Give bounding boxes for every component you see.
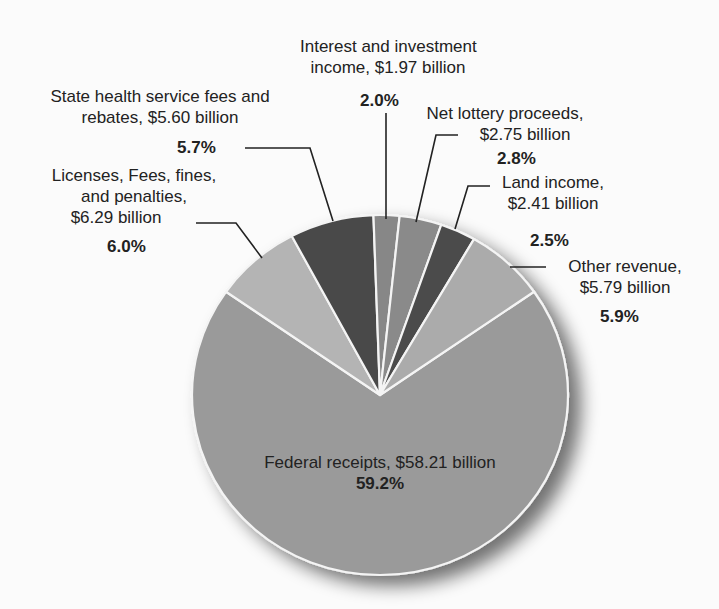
pct-state-health-value: 5.7% xyxy=(177,137,216,158)
label-interest-line2: income, $1.97 billion xyxy=(300,57,476,78)
pct-federal-value: 59.2% xyxy=(230,473,530,494)
pie-chart: Interest and investment income, $1.97 bi… xyxy=(0,0,719,609)
label-land-line2: $2.41 billion xyxy=(493,193,613,214)
pct-land: 2.5% xyxy=(530,230,569,251)
label-licenses: Licenses, Fees, fines, and penalties, $6… xyxy=(34,165,234,228)
label-net-lottery: Net lottery proceeds, $2.75 billion xyxy=(420,103,590,145)
leader-line-licenses xyxy=(196,223,262,258)
label-land-line1: Land income, xyxy=(493,172,613,193)
label-interest: Interest and investment income, $1.97 bi… xyxy=(300,36,476,78)
pct-licenses-value: 6.0% xyxy=(107,236,146,257)
pct-land-value: 2.5% xyxy=(530,230,569,251)
label-net-lottery-line2: $2.75 billion xyxy=(420,124,590,145)
label-state-health-line1: State health service fees and xyxy=(40,86,280,107)
pct-net-lottery: 2.8% xyxy=(497,148,536,169)
pie-slices xyxy=(192,215,568,575)
label-other-line2: $5.79 billion xyxy=(550,277,700,298)
pct-interest-value: 2.0% xyxy=(360,90,399,111)
label-net-lottery-line1: Net lottery proceeds, xyxy=(420,103,590,124)
label-other-line1: Other revenue, xyxy=(550,256,700,277)
pct-net-lottery-value: 2.8% xyxy=(497,148,536,169)
label-land: Land income, $2.41 billion xyxy=(493,172,613,214)
label-federal: Federal receipts, $58.21 billion 59.2% xyxy=(230,452,530,494)
label-licenses-line3: $6.29 billion xyxy=(34,207,234,228)
label-federal-line1: Federal receipts, $58.21 billion xyxy=(230,452,530,473)
label-licenses-line1: Licenses, Fees, fines, xyxy=(34,165,234,186)
pct-state-health: 5.7% xyxy=(177,137,216,158)
label-state-health-line2: rebates, $5.60 billion xyxy=(40,107,280,128)
label-licenses-line2: and penalties, xyxy=(34,186,234,207)
label-state-health: State health service fees and rebates, $… xyxy=(40,86,280,128)
pct-other: 5.9% xyxy=(600,306,639,327)
leader-line-state-health xyxy=(245,148,333,221)
pct-licenses: 6.0% xyxy=(107,236,146,257)
leader-line-net-lottery xyxy=(416,135,458,222)
label-interest-line1: Interest and investment xyxy=(300,36,476,57)
label-other: Other revenue, $5.79 billion xyxy=(550,256,700,298)
leader-line-land xyxy=(455,186,490,229)
pct-interest: 2.0% xyxy=(360,90,399,111)
pct-other-value: 5.9% xyxy=(600,306,639,327)
